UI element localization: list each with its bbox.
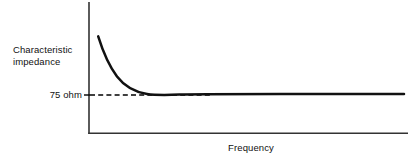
y-tick-label-75ohm: 75 ohm <box>40 89 82 101</box>
x-axis-label: Frequency <box>196 142 306 154</box>
y-axis-label-line1: Characteristic <box>13 44 72 55</box>
y-axis-label: Characteristic impedance <box>13 44 72 67</box>
y-axis-label-line2: impedance <box>13 56 72 68</box>
impedance-vs-frequency-figure: Characteristic impedance 75 ohm Frequenc… <box>0 0 414 163</box>
plot-area <box>0 0 414 163</box>
impedance-curve <box>98 36 404 95</box>
